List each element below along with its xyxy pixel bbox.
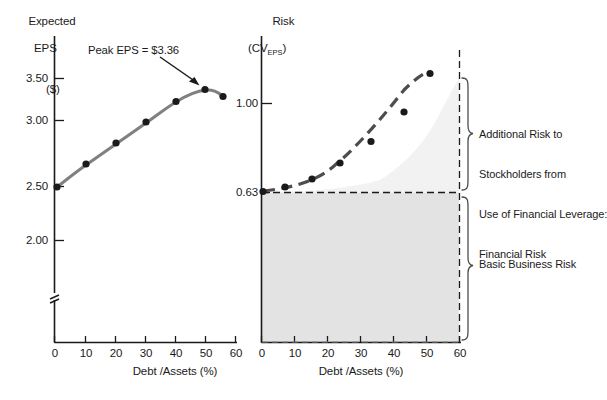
left-xtick-label-60: 60: [225, 347, 247, 360]
left-xtick-label-0: 0: [44, 347, 66, 360]
right-xtick-label-0: 0: [251, 347, 273, 360]
left-ytick-label-250: 2.50: [4, 180, 48, 193]
left-ytick-label-200: 2.00: [4, 234, 48, 247]
additional-risk-line2: Stockholders from: [479, 168, 607, 181]
left-axis-break-mark-1: [50, 295, 59, 299]
basic-business-risk-annotation: Basic Business Risk: [479, 258, 576, 271]
right-axis-title-subscript: EPS: [268, 48, 283, 57]
right-datapoint: [281, 183, 288, 190]
right-xtick-label-30: 30: [350, 347, 372, 360]
right-datapoint: [367, 138, 374, 145]
right-axis-title-paren-open: (CV: [248, 42, 268, 54]
table-header-debt-assets-ratio: Debt/Assets Ratio: [20, 387, 170, 400]
right-datapoint: [400, 108, 407, 115]
right-axis-title-line2: (CVEPS): [248, 42, 294, 55]
basic-business-risk-region: [262, 193, 459, 343]
basic-business-risk-brace: [462, 197, 473, 340]
bottom-table-header-row: Debt/Assets Ratio Expected EPS Standard …: [0, 374, 589, 400]
right-axis-title-paren-close: ): [283, 42, 287, 54]
left-xtick-label-40: 40: [165, 347, 187, 360]
left-axis-title-line1: Expected: [28, 15, 75, 27]
table-header-expected-eps: Expected EPS: [175, 387, 295, 400]
left-chart-group: [50, 36, 237, 343]
right-chart-y-axis-title: Risk (CVEPS): [248, 2, 294, 83]
left-xtick-label-10: 10: [75, 347, 97, 360]
peak-eps-annotation: Peak EPS = $3.36: [88, 44, 179, 57]
right-xtick-label-10: 10: [284, 347, 306, 360]
additional-risk-line1: Additional Risk to: [479, 128, 607, 141]
left-xtick-label-20: 20: [105, 347, 127, 360]
peak-annotation-arrow-line: [160, 57, 196, 82]
right-datapoint: [426, 70, 433, 77]
left-xtick-label-30: 30: [135, 347, 157, 360]
right-xtick-label-60: 60: [449, 347, 471, 360]
right-axis-title-line1: Risk: [260, 15, 294, 27]
table-header-coefficient-of-variation: Coefficient of Variation: [420, 375, 550, 400]
left-datapoint: [53, 183, 60, 190]
left-axis-title-line2: EPS: [16, 42, 76, 55]
right-xtick-label-20: 20: [317, 347, 339, 360]
right-xtick-label-50: 50: [416, 347, 438, 360]
right-datapoint: [308, 175, 315, 182]
left-datapoint: [82, 160, 89, 167]
left-chart-y-axis-title: Expected EPS ($): [16, 2, 76, 123]
additional-risk-brace: [462, 78, 473, 190]
left-eps-curve: [57, 90, 222, 187]
left-datapoint: [172, 98, 179, 105]
additional-risk-region: [262, 78, 459, 193]
left-xtick-label-50: 50: [195, 347, 217, 360]
right-xtick-label-40: 40: [383, 347, 405, 360]
right-datapoint: [259, 188, 266, 195]
left-datapoint: [112, 139, 119, 146]
right-ytick-label-063: 0.63: [214, 186, 258, 199]
left-ytick-label-300: 3.00: [4, 114, 48, 127]
left-datapoint: [201, 86, 208, 93]
right-datapoint: [336, 159, 343, 166]
table-header-standard-deviation: Standard Deviation of EPS: [288, 375, 418, 400]
left-ytick-label-350: 3.50: [4, 72, 48, 85]
additional-risk-line3: Use of Financial Leverage:: [479, 208, 607, 221]
left-datapoint: [142, 118, 149, 125]
right-ytick-label-100: 1.00: [214, 97, 258, 110]
